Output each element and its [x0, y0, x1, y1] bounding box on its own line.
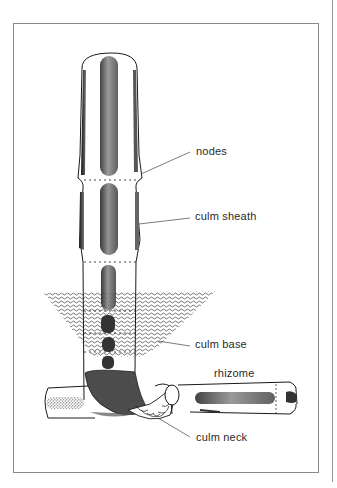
bamboo-diagram	[0, 0, 337, 488]
label-culm-neck: culm neck	[196, 431, 247, 443]
label-nodes: nodes	[196, 145, 227, 157]
label-culm-sheath: culm sheath	[195, 210, 257, 222]
soil-region	[44, 291, 216, 357]
culm-base-neck	[85, 370, 174, 419]
label-culm-base: culm base	[195, 338, 247, 350]
label-rhizome: rhizome	[214, 367, 255, 379]
